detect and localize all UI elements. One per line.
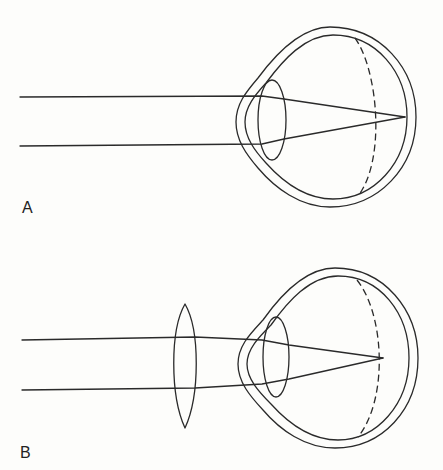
eye-a-crystalline-lens bbox=[258, 80, 286, 160]
eye-a-inner-wall bbox=[245, 35, 407, 199]
eye-b-lower-ray bbox=[22, 358, 383, 390]
eye-b-inner-wall bbox=[247, 276, 409, 440]
eye-a-outer-wall bbox=[236, 27, 416, 207]
eye-b-retina-arc bbox=[357, 280, 379, 437]
eye-optics-diagram: A B bbox=[0, 0, 443, 470]
panel-a-label: A bbox=[22, 199, 33, 216]
panel-b-label: B bbox=[20, 444, 31, 461]
panel-a: A bbox=[20, 27, 416, 216]
eye-b-crystalline-lens bbox=[263, 317, 289, 397]
eye-b-outer-wall bbox=[238, 268, 418, 448]
eye-a-upper-ray bbox=[20, 96, 405, 117]
eye-b-upper-ray bbox=[22, 337, 383, 358]
eye-a-lower-ray bbox=[20, 117, 405, 146]
panel-b: B bbox=[20, 268, 418, 461]
eye-a-retina-arc bbox=[355, 38, 376, 196]
corrective-convex-lens bbox=[174, 304, 197, 428]
